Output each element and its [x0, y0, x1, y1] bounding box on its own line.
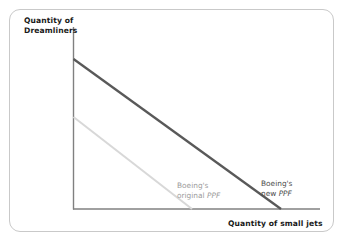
new-ppf-label-line2: new: [261, 189, 279, 198]
y-axis-title: Quantity of Dreamliners: [24, 16, 77, 36]
x-axis-title: Quantity of small jets: [228, 219, 323, 229]
new-ppf-label-line1: Boeing's: [261, 179, 292, 188]
original-ppf-label-line2: original: [177, 191, 207, 200]
new-ppf-label-emphasis: PPF: [279, 189, 292, 198]
ppf-figure: Quantity of Dreamliners Quantity of smal…: [0, 0, 345, 242]
original-ppf-label: Boeing'soriginal PPF: [177, 181, 220, 201]
ppf-plot-area: [0, 0, 345, 242]
original-ppf-label-emphasis: PPF: [207, 191, 220, 200]
original-ppf-label-line1: Boeing's: [177, 181, 208, 190]
new-ppf-label: Boeing'snew PPF: [261, 179, 292, 199]
